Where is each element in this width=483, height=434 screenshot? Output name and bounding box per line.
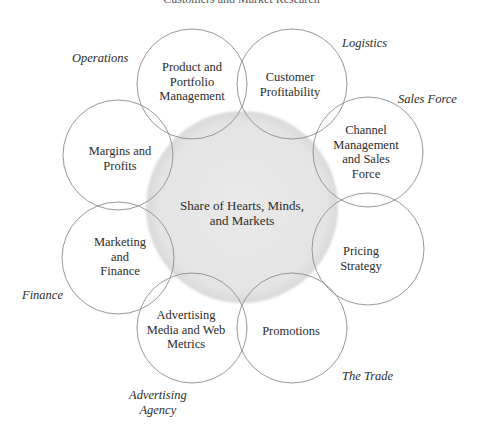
label-line: Promotions (262, 324, 320, 339)
label-line: and Sales (333, 152, 398, 167)
diagram-canvas: Customers and Market Research (0, 0, 483, 434)
label-channel-management: Channel Management and Sales Force (333, 123, 398, 181)
stakeholder-sales-force: Sales Force (398, 92, 457, 107)
label-line: Portfolio (159, 75, 224, 90)
stakeholder-line: Finance (22, 288, 63, 303)
stakeholder-line: The Trade (342, 369, 393, 384)
label-line: Finance (94, 264, 146, 279)
label-line: Profitability (260, 84, 320, 99)
stakeholder-advertising-agency: Advertising Agency (129, 388, 187, 417)
label-line: Channel (333, 123, 398, 138)
label-line: Marketing (94, 235, 146, 250)
label-line: Margins and (89, 144, 152, 159)
label-customer-profitability: Customer Profitability (260, 70, 320, 99)
label-pricing-strategy: Pricing Strategy (340, 244, 382, 273)
label-advertising-media: Advertising Media and Web Metrics (147, 308, 226, 352)
label-line: Media and Web (147, 323, 226, 338)
label-product-portfolio: Product and Portfolio Management (159, 60, 224, 104)
label-line: Strategy (340, 258, 382, 273)
label-line: Advertising (147, 308, 226, 323)
stakeholder-line: Logistics (342, 36, 387, 51)
center-label-line-1: Share of Hearts, Minds, (180, 198, 304, 213)
stakeholder-logistics: Logistics (342, 36, 387, 51)
stakeholder-line: Advertising (129, 388, 187, 403)
label-line: Metrics (147, 337, 226, 352)
label-promotions: Promotions (262, 324, 320, 339)
stakeholder-line: Operations (72, 51, 128, 66)
label-line: Management (333, 138, 398, 153)
stakeholder-operations: Operations (72, 51, 128, 66)
stakeholder-the-trade: The Trade (342, 369, 393, 384)
label-line: Pricing (340, 244, 382, 259)
stakeholder-line: Sales Force (398, 92, 457, 107)
label-line: Product and (159, 60, 224, 75)
label-line: and (94, 250, 146, 265)
label-line: Management (159, 89, 224, 104)
label-line: Customer (260, 70, 320, 85)
label-line: Force (333, 167, 398, 182)
center-label: Share of Hearts, Minds, and Markets (180, 198, 304, 228)
stakeholder-finance: Finance (22, 288, 63, 303)
label-marketing-finance: Marketing and Finance (94, 235, 146, 279)
stakeholder-line: Agency (129, 403, 187, 418)
center-label-line-2: and Markets (180, 213, 304, 228)
label-line: Profits (89, 158, 152, 173)
label-margins-profits: Margins and Profits (89, 144, 152, 173)
